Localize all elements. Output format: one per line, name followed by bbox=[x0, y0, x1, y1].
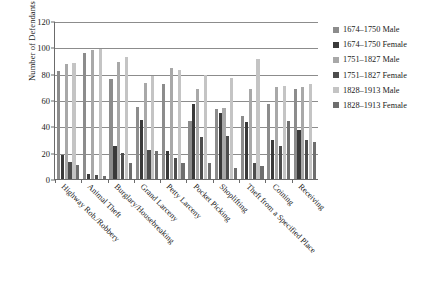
bar bbox=[241, 116, 244, 179]
bar bbox=[297, 130, 300, 179]
x-axis-category-label: Coining bbox=[271, 182, 296, 207]
y-axis-tick-label: 100 bbox=[37, 44, 50, 53]
bar bbox=[219, 113, 222, 179]
bar bbox=[136, 107, 139, 179]
bar bbox=[65, 64, 68, 179]
bar bbox=[309, 84, 312, 179]
legend-item[interactable]: 1828–1913 Male bbox=[333, 86, 407, 95]
bar bbox=[147, 150, 150, 179]
bar bbox=[178, 70, 181, 179]
bar bbox=[192, 104, 195, 179]
bar bbox=[279, 146, 282, 179]
legend-label: 1751–1827 Female bbox=[343, 71, 407, 80]
bar-group bbox=[292, 22, 318, 179]
bar bbox=[249, 89, 252, 179]
bar bbox=[95, 175, 98, 179]
plot-area: 020406080100120 bbox=[54, 22, 318, 180]
y-axis-tick-label: 20 bbox=[42, 149, 51, 158]
bar bbox=[275, 87, 278, 179]
bar bbox=[215, 109, 218, 179]
bar bbox=[87, 174, 90, 179]
legend-label: 1674–1750 Male bbox=[343, 25, 399, 34]
bar-group bbox=[160, 22, 186, 179]
bar bbox=[121, 153, 124, 179]
legend-swatch-icon bbox=[333, 57, 339, 63]
bar bbox=[76, 165, 79, 179]
legend-swatch-icon bbox=[333, 42, 339, 48]
bar bbox=[204, 75, 207, 179]
bar-group bbox=[213, 22, 239, 179]
bar bbox=[253, 163, 256, 179]
bar-groups bbox=[55, 22, 318, 179]
bar bbox=[181, 163, 184, 179]
bar bbox=[313, 142, 316, 179]
bar bbox=[208, 163, 211, 179]
legend-item[interactable]: 1674–1750 Female bbox=[333, 40, 407, 49]
bar bbox=[196, 89, 199, 179]
bar bbox=[57, 71, 60, 179]
bar bbox=[113, 146, 116, 179]
bar bbox=[230, 78, 233, 179]
bar-group bbox=[81, 22, 107, 179]
bar-group bbox=[186, 22, 212, 179]
bar-group bbox=[108, 22, 134, 179]
bar bbox=[245, 122, 248, 179]
bar bbox=[174, 158, 177, 179]
bar bbox=[68, 162, 71, 179]
bar bbox=[91, 50, 94, 179]
legend-label: 1674–1750 Female bbox=[343, 40, 407, 49]
bar bbox=[188, 121, 191, 179]
bar bbox=[294, 89, 297, 179]
legend-swatch-icon bbox=[333, 102, 339, 108]
legend-swatch-icon bbox=[333, 87, 339, 93]
y-axis-tick-label: 60 bbox=[42, 97, 51, 106]
bar bbox=[72, 63, 75, 179]
bar bbox=[83, 53, 86, 179]
bar bbox=[151, 76, 154, 179]
bar bbox=[170, 68, 173, 179]
legend-label: 1828–1913 Female bbox=[343, 101, 407, 110]
bar bbox=[256, 59, 259, 179]
bar bbox=[260, 166, 263, 179]
bar bbox=[283, 86, 286, 179]
y-axis-title: Number of Defendants bbox=[27, 0, 37, 115]
bar-group bbox=[239, 22, 265, 179]
legend-swatch-icon bbox=[333, 72, 339, 78]
y-axis-tick-label: 40 bbox=[42, 123, 51, 132]
bar bbox=[109, 79, 112, 179]
legend-item[interactable]: 1828–1913 Female bbox=[333, 101, 407, 110]
y-axis-tick-label: 120 bbox=[37, 18, 50, 27]
bar bbox=[305, 140, 308, 180]
bar bbox=[162, 84, 165, 179]
bar bbox=[117, 62, 120, 179]
y-axis-tick-label: 0 bbox=[46, 176, 50, 185]
bar bbox=[61, 155, 64, 179]
x-axis-labels: Highway Rob./RobberyAnimal TheftBurglary… bbox=[54, 182, 318, 282]
bar bbox=[166, 151, 169, 179]
bar bbox=[301, 87, 304, 179]
bar bbox=[226, 136, 229, 179]
bar bbox=[287, 121, 290, 179]
chart-legend: 1674–1750 Male1674–1750 Female1751–1827 … bbox=[333, 25, 407, 110]
legend-item[interactable]: 1674–1750 Male bbox=[333, 25, 407, 34]
bar bbox=[99, 49, 102, 179]
bar bbox=[144, 83, 147, 179]
y-axis-tick-label: 80 bbox=[42, 70, 51, 79]
bar bbox=[234, 168, 237, 179]
bar-group bbox=[55, 22, 81, 179]
bar bbox=[125, 57, 128, 179]
bar bbox=[271, 140, 274, 180]
bar bbox=[155, 151, 158, 179]
bar-group bbox=[134, 22, 160, 179]
legend-item[interactable]: 1751–1827 Female bbox=[333, 71, 407, 80]
bar bbox=[103, 176, 106, 179]
bar-chart: Number of Defendants 020406080100120 Hig… bbox=[0, 0, 434, 291]
bar bbox=[129, 163, 132, 179]
legend-label: 1751–1827 Male bbox=[343, 55, 399, 64]
legend-label: 1828–1913 Male bbox=[343, 86, 399, 95]
bar bbox=[222, 108, 225, 179]
bar bbox=[140, 120, 143, 179]
bar-group bbox=[265, 22, 291, 179]
legend-item[interactable]: 1751–1827 Male bbox=[333, 55, 407, 64]
legend-swatch-icon bbox=[333, 27, 339, 33]
